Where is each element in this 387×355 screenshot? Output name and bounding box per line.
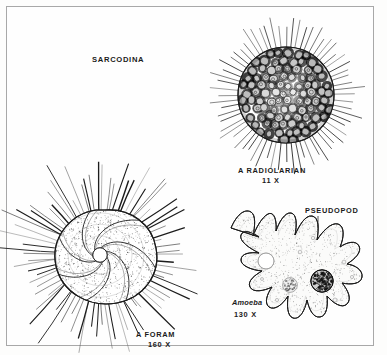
radiolarian-drawing [210, 18, 365, 174]
figure-title: SARCODINA [92, 55, 144, 64]
foram-label: A FORAM [136, 330, 175, 339]
amoeba-label: Amoeba [232, 298, 262, 307]
foram-drawing [0, 162, 198, 353]
pseudopod-annotation: PSEUDOPOD [305, 206, 359, 215]
illustration-canvas [0, 0, 387, 355]
foram-magnification: 160 X [148, 340, 171, 349]
figure-page: SARCODINA A RADIOLARIAN 11 X PSEUDOPOD A… [0, 0, 387, 355]
amoeba-magnification: 130 X [234, 310, 257, 319]
radiolarian-label: A RADIOLARIAN [238, 166, 306, 175]
radiolarian-magnification: 11 X [262, 176, 280, 185]
